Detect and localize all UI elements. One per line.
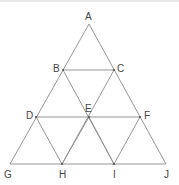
triangle-grid-diagram: ABCDEFGHIJ [0, 0, 179, 185]
label-i: I [113, 169, 116, 180]
segment-fi [114, 117, 140, 164]
segment-eh [62, 117, 89, 164]
vertex-h [61, 163, 63, 165]
segment-ei [89, 117, 114, 164]
vertex-c [113, 69, 115, 71]
segment-dh [36, 117, 62, 164]
label-g: G [4, 169, 12, 180]
label-a: A [85, 11, 92, 22]
segment-ag [10, 24, 89, 164]
label-f: F [144, 110, 150, 121]
label-c: C [117, 63, 124, 74]
vertex-e [88, 116, 90, 118]
vertex-i [113, 163, 115, 165]
vertex-d [35, 116, 37, 118]
label-d: D [26, 110, 33, 121]
label-j: J [164, 169, 169, 180]
vertex-f [139, 116, 141, 118]
labels-group: ABCDEFGHIJ [4, 11, 169, 180]
label-b: B [53, 63, 60, 74]
segments-group [10, 24, 166, 164]
label-e: E [85, 103, 92, 114]
vertex-b [62, 69, 64, 71]
label-h: H [59, 169, 66, 180]
